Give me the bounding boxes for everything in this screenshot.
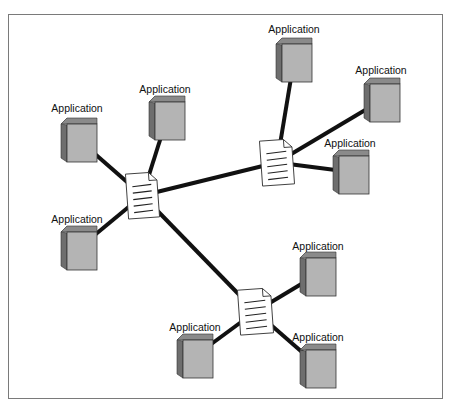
server-box-icon	[276, 38, 312, 44]
application-label: Application	[292, 331, 343, 343]
application-node[interactable]	[61, 118, 97, 162]
application-label: Application	[139, 83, 190, 95]
application-label: Application	[51, 213, 102, 225]
application-nodes	[61, 38, 400, 388]
application-label: Application	[51, 102, 102, 114]
server-box-icon	[300, 344, 336, 350]
connectors	[79, 60, 382, 366]
network-diagram	[0, 0, 453, 409]
application-node[interactable]	[300, 252, 336, 296]
application-label: Application	[355, 64, 406, 76]
application-label: Application	[169, 321, 220, 333]
application-node[interactable]	[149, 96, 185, 140]
server-box-icon	[61, 118, 97, 124]
server-box-icon	[364, 78, 400, 84]
document-icon[interactable]	[237, 288, 273, 335]
application-node[interactable]	[61, 226, 97, 270]
application-label: Application	[324, 137, 375, 149]
application-node[interactable]	[333, 150, 369, 194]
application-node[interactable]	[276, 38, 312, 82]
application-label: Application	[292, 240, 343, 252]
document-icon[interactable]	[259, 139, 294, 186]
application-label: Application	[268, 23, 319, 35]
server-box-icon	[177, 334, 213, 340]
application-node[interactable]	[300, 344, 336, 388]
server-box-icon	[61, 226, 97, 232]
hub-link	[143, 163, 278, 196]
server-box-icon	[149, 96, 185, 102]
server-box-icon	[300, 252, 336, 258]
server-box-icon	[333, 150, 369, 156]
application-node[interactable]	[364, 78, 400, 122]
document-icon[interactable]	[125, 172, 159, 219]
application-node[interactable]	[177, 334, 213, 378]
